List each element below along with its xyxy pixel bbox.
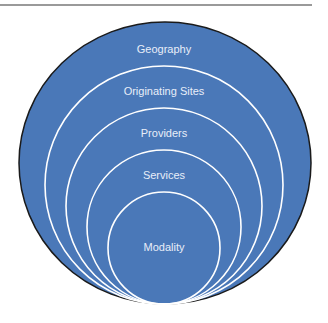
label-providers: Providers [141, 127, 188, 139]
label-originating-sites: Originating Sites [124, 85, 205, 97]
layer-geography-circle [19, 22, 311, 304]
label-services: Services [143, 169, 186, 181]
nested-circles-diagram: Geography Originating Sites Providers Se… [0, 0, 328, 323]
label-modality: Modality [144, 241, 185, 253]
label-geography: Geography [137, 43, 192, 55]
